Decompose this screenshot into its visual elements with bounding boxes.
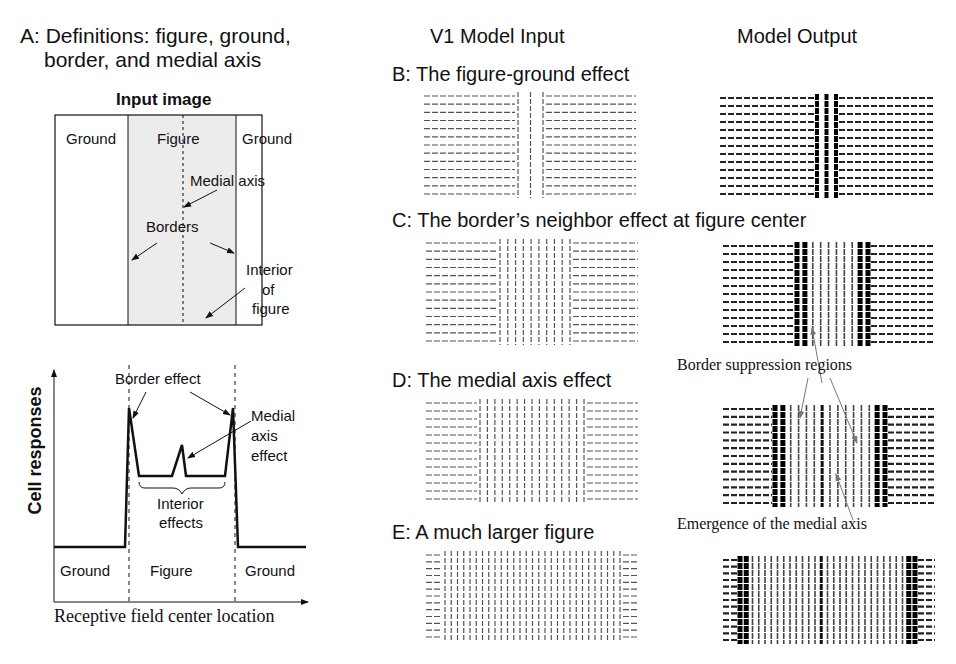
- input-figure-label: Figure: [157, 130, 200, 147]
- stimulus-b-output: [720, 94, 934, 198]
- input-ground-left-label: Ground: [66, 130, 116, 147]
- medial-effect-label-1: Medial: [251, 407, 295, 424]
- output-column-header: Model Output: [737, 24, 857, 48]
- medial-axis-label: Medial axis: [190, 172, 265, 189]
- y-axis-label: Cell responses: [25, 386, 46, 516]
- border-effect-arrow-right: [190, 392, 230, 415]
- interior-label-1: Interior: [246, 261, 293, 278]
- stimulus-c-input: [426, 239, 638, 345]
- interior-label-2: of: [262, 281, 275, 298]
- medial-effect-label-2: axis: [251, 427, 278, 444]
- interior-label-3: figure: [252, 300, 290, 317]
- panel-c-title: C: The border’s neighbor effect at figur…: [392, 208, 806, 232]
- borders-label: Borders: [146, 218, 199, 235]
- input-ground-right-label: Ground: [242, 130, 292, 147]
- interior-effects-label-2: effects: [159, 514, 203, 531]
- interior-brace: [139, 482, 225, 494]
- x-axis-label: Receptive field center location: [54, 606, 274, 627]
- plot-figure-label: Figure: [150, 562, 193, 579]
- border-suppression-annotation: Border suppression regions: [677, 356, 852, 374]
- stimulus-d-input: [426, 399, 638, 503]
- border-effect-arrow-left: [133, 392, 146, 418]
- plot-ground-right-label: Ground: [245, 562, 295, 579]
- stimulus-e-output: [723, 556, 935, 644]
- interior-effects-label-1: Interior: [157, 495, 204, 512]
- panel-a-title-line2: border, and medial axis: [44, 48, 261, 72]
- stimulus-b-input: [424, 92, 636, 198]
- stimulus-c-output: [723, 242, 935, 346]
- panel-a-title-line1: A: Definitions: figure, ground,: [20, 24, 291, 48]
- stimulus-d-output: [723, 405, 935, 507]
- medial-effect-label-3: effect: [251, 447, 287, 464]
- panel-e-title: E: A much larger figure: [392, 520, 594, 544]
- border-effect-label: Border effect: [115, 370, 201, 387]
- input-column-header: V1 Model Input: [430, 24, 565, 48]
- stimulus-e-input: [426, 551, 638, 641]
- plot-ground-left-label: Ground: [60, 562, 110, 579]
- medial-emergence-annotation: Emergence of the medial axis: [677, 515, 867, 533]
- input-image-heading: Input image: [116, 90, 211, 110]
- panel-b-title: B: The figure-ground effect: [392, 62, 629, 86]
- medial-effect-arrow: [188, 421, 251, 458]
- panel-d-title: D: The medial axis effect: [392, 368, 611, 392]
